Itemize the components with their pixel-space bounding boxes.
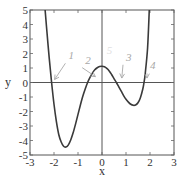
function-curve: [45, 10, 149, 147]
annotation-label: 3: [125, 51, 132, 63]
root-annotations: 12345: [55, 44, 156, 80]
x-tick-label: -1: [73, 156, 82, 168]
y-tick-labels: 543210-1-2-3-4-5: [19, 4, 29, 161]
x-tick-label: 1: [123, 156, 129, 168]
annotation-label: 2: [85, 54, 91, 66]
x-tick-label: -2: [49, 156, 58, 168]
annotation-label: 4: [150, 59, 156, 71]
x-tick-label: 3: [171, 156, 177, 168]
y-tick-label: -3: [19, 120, 29, 132]
faint-annotation-label: 5: [107, 44, 113, 56]
function-plot: -3-2-10123 543210-1-2-3-4-5 12345 x y: [0, 0, 187, 180]
annotation-arrowhead-icon: [55, 75, 59, 80]
y-tick-label: -4: [19, 135, 29, 147]
y-tick-label: 2: [23, 48, 29, 60]
y-tick-label: 4: [23, 19, 29, 31]
y-tick-label: 1: [23, 62, 29, 74]
annotation-arrow: [55, 63, 66, 79]
x-tick-label: 2: [147, 156, 153, 168]
y-tick-label: 3: [23, 33, 29, 45]
y-tick-label: 5: [23, 4, 29, 16]
y-tick-label: -1: [19, 91, 28, 103]
annotation-label: 1: [68, 49, 74, 61]
y-tick-label: 0: [23, 77, 29, 89]
y-tick-label: -5: [19, 149, 29, 161]
y-axis-label: y: [5, 75, 11, 89]
x-axis-label: x: [99, 164, 105, 178]
y-tick-label: -2: [19, 106, 28, 118]
